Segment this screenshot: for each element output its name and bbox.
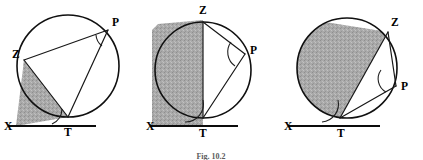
- vertex-label-X-2: X: [146, 120, 155, 132]
- circle-tangent-diagram-1: X T Z P: [4, 15, 119, 138]
- chord-ZP-3: [388, 32, 396, 86]
- vertex-label-X-3: X: [284, 120, 293, 132]
- vertex-label-T-1: T: [64, 126, 72, 138]
- vertex-label-T-3: T: [337, 127, 345, 139]
- figure-caption: Fig. 10.2: [196, 152, 225, 160]
- vertex-label-X-1: X: [4, 120, 13, 132]
- chord-ZP-1: [24, 30, 108, 60]
- angle-arc-at-P-3: [378, 70, 386, 92]
- figure-board: X T Z P X T Z P: [0, 0, 423, 160]
- vertex-label-Z-1: Z: [12, 48, 20, 60]
- vertex-label-Z-3: Z: [391, 16, 399, 28]
- circle-tangent-diagram-3: X T Z P: [284, 16, 408, 139]
- vertex-label-P-3: P: [401, 80, 408, 92]
- circle-outline-1: [17, 15, 119, 117]
- vertex-label-T-2: T: [199, 127, 207, 139]
- chord-PT-2: [203, 54, 245, 118]
- vertex-label-Z-2: Z: [199, 4, 207, 16]
- circle-tangent-diagram-2: X T Z P: [146, 4, 257, 139]
- vertex-label-P-2: P: [250, 44, 257, 56]
- vertex-label-P-1: P: [112, 16, 119, 28]
- geometry-figure: X T Z P X T Z P: [0, 0, 423, 160]
